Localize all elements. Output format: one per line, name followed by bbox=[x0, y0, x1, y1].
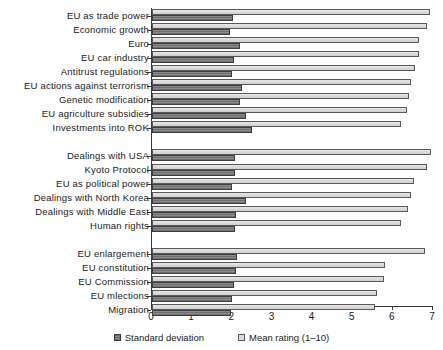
x-tick-label: 6 bbox=[389, 311, 395, 322]
category-label: Genetic modification bbox=[59, 95, 149, 105]
bar-standard-deviation bbox=[152, 310, 231, 316]
x-tick-mark bbox=[392, 306, 393, 310]
category-label: Migration bbox=[108, 305, 149, 315]
category-label: EU constitution bbox=[82, 263, 149, 273]
x-tick-label: 7 bbox=[429, 311, 435, 322]
bar-standard-deviation bbox=[152, 29, 230, 35]
category-label: EU agriculture subsidies bbox=[42, 109, 149, 119]
chart-legend: Standard deviation Mean rating (1–10) bbox=[0, 332, 443, 343]
bar-standard-deviation bbox=[152, 282, 234, 288]
category-label: EU enlargement bbox=[78, 249, 149, 259]
bar-standard-deviation bbox=[152, 254, 237, 260]
legend-item-standard-deviation: Standard deviation bbox=[114, 332, 204, 343]
bar-standard-deviation bbox=[152, 212, 236, 218]
x-tick-label: 3 bbox=[269, 311, 275, 322]
bar-standard-deviation bbox=[152, 184, 232, 190]
bar-standard-deviation bbox=[152, 155, 235, 161]
category-label: EU actions against terrorism bbox=[24, 81, 149, 91]
bar-standard-deviation bbox=[152, 85, 242, 91]
horizontal-bar-chart: 01234567 EU as trade powerEconomic growt… bbox=[0, 0, 443, 350]
bar-standard-deviation bbox=[152, 170, 235, 176]
bar-standard-deviation bbox=[152, 226, 235, 232]
category-label: EU mlections bbox=[91, 291, 149, 301]
category-label: Investments into ROK bbox=[53, 123, 149, 133]
bar-standard-deviation bbox=[152, 268, 236, 274]
category-label: Dealings with North Korea bbox=[34, 193, 149, 203]
category-label: EU as trade power bbox=[67, 11, 149, 21]
bar-standard-deviation bbox=[152, 43, 240, 49]
category-label: Economic growth bbox=[73, 25, 149, 35]
legend-swatch-mean-icon bbox=[238, 334, 245, 341]
category-label: EU Commission bbox=[78, 277, 149, 287]
category-label: Human rights bbox=[90, 221, 149, 231]
bar-standard-deviation bbox=[152, 15, 233, 21]
bar-standard-deviation bbox=[152, 71, 232, 77]
bar-standard-deviation bbox=[152, 99, 240, 105]
x-tick-mark bbox=[432, 306, 433, 310]
bar-standard-deviation bbox=[152, 113, 246, 119]
category-label: Kyoto Protocol bbox=[84, 165, 149, 175]
category-label: Antitrust regulations bbox=[61, 67, 149, 77]
legend-item-mean-rating: Mean rating (1–10) bbox=[238, 332, 329, 343]
category-label: EU car industry bbox=[81, 53, 149, 63]
category-label: EU as political power bbox=[56, 179, 149, 189]
legend-label-sd: Standard deviation bbox=[125, 332, 204, 343]
legend-swatch-sd-icon bbox=[114, 334, 121, 341]
category-label: Dealings with USA bbox=[67, 151, 149, 161]
bar-standard-deviation bbox=[152, 57, 234, 63]
legend-label-mean: Mean rating (1–10) bbox=[249, 332, 329, 343]
x-tick-label: 5 bbox=[349, 311, 355, 322]
bar-standard-deviation bbox=[152, 127, 252, 133]
category-label: Euro bbox=[128, 39, 149, 49]
bar-standard-deviation bbox=[152, 296, 232, 302]
category-label: Dealings with Middle East bbox=[35, 207, 149, 217]
x-tick-label: 4 bbox=[309, 311, 315, 322]
bar-standard-deviation bbox=[152, 198, 246, 204]
